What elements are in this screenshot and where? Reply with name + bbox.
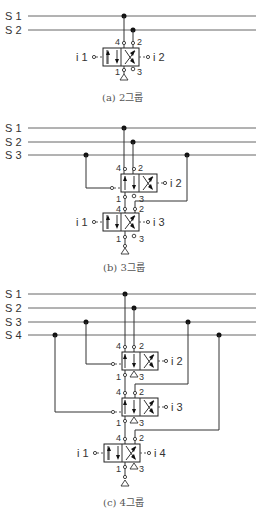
- port-3: 3: [139, 194, 144, 204]
- line-label-s1: S 1: [5, 122, 22, 134]
- port-1: 1: [116, 418, 121, 428]
- valve-5-2: [103, 48, 139, 66]
- supply-triangle-icon: [121, 248, 129, 254]
- port-2: 2: [137, 37, 142, 47]
- port-2: 2: [139, 204, 144, 214]
- port-4: 4: [115, 37, 120, 47]
- input-i4: i 4: [154, 447, 166, 459]
- port-3: 3: [139, 464, 144, 474]
- input-i2: i 2: [171, 355, 183, 367]
- caption-c: (c) 4그룹: [103, 497, 144, 508]
- figure-c: S 1 S 2 S 3 S 4 4 2: [5, 288, 256, 508]
- port-3: 3: [137, 67, 142, 77]
- input-i1: i 1: [76, 51, 88, 63]
- port-2: 2: [139, 341, 144, 351]
- line-label-s4: S 4: [5, 329, 22, 341]
- port-3: 3: [139, 234, 144, 244]
- supply-triangle-icon: [120, 74, 128, 80]
- input-i3: i 3: [153, 216, 165, 228]
- port-1: 1: [115, 67, 120, 77]
- line-label-s2: S 2: [5, 302, 22, 314]
- caption-a: (a) 2그룹: [102, 92, 143, 103]
- line-label-s2: S 2: [5, 136, 22, 148]
- input-i1: i 1: [77, 447, 89, 459]
- port-1: 1: [116, 464, 121, 474]
- line-label-s3: S 3: [5, 316, 22, 328]
- line-label-s2: S 2: [5, 24, 22, 36]
- input-i1: i 1: [76, 216, 88, 228]
- valve-5-2: [103, 213, 139, 231]
- port-2: 2: [138, 163, 143, 173]
- port-1: 1: [116, 372, 121, 382]
- port-4: 4: [116, 433, 121, 443]
- supply-triangle-icon: [121, 480, 129, 486]
- port-4: 4: [116, 163, 121, 173]
- port-4: 4: [116, 387, 121, 397]
- port-3: 3: [139, 418, 144, 428]
- input-i3: i 3: [171, 401, 183, 413]
- valve-5-2: [104, 444, 140, 462]
- figure-b: S 1 S 2 S 3 4 2: [5, 122, 256, 273]
- line-label-s3: S 3: [5, 149, 22, 161]
- input-i2: i 2: [153, 51, 165, 63]
- port-1: 1: [116, 194, 121, 204]
- port-2: 2: [139, 433, 144, 443]
- caption-b: (b) 3그룹: [103, 262, 145, 273]
- figure-a: S 1 S 2 4 2 i 1 i 2 1 3 (a) 2그룹: [5, 10, 256, 103]
- port-4: 4: [116, 341, 121, 351]
- port-2: 2: [139, 387, 144, 397]
- input-i2: i 2: [170, 177, 182, 189]
- line-label-s1: S 1: [5, 288, 22, 300]
- line-label-s1: S 1: [5, 10, 22, 22]
- port-1: 1: [116, 234, 121, 244]
- port-3: 3: [139, 372, 144, 382]
